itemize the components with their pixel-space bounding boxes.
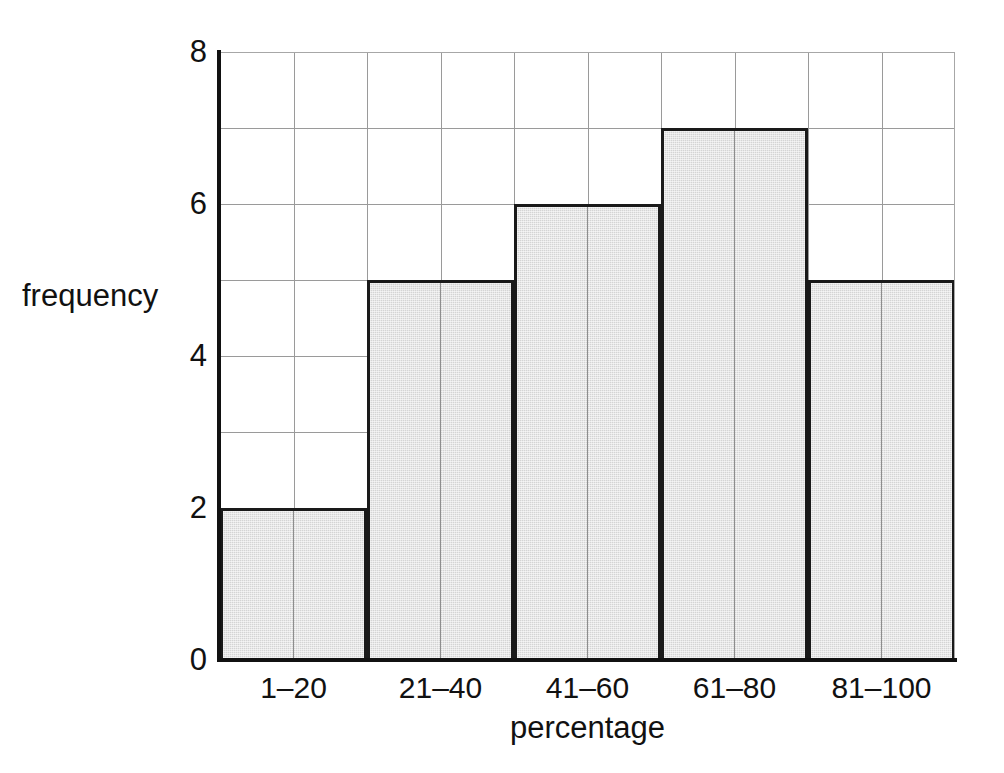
- bar: [367, 280, 514, 660]
- bar-half-divider: [440, 283, 441, 660]
- y-tick-label: 8: [147, 36, 207, 67]
- bar-series: [220, 52, 955, 660]
- bar: [220, 508, 367, 660]
- x-axis-line: [217, 658, 957, 662]
- bar-half-divider: [587, 207, 588, 660]
- bar: [808, 280, 955, 660]
- bar-half-divider: [881, 283, 882, 660]
- y-axis-tick-labels: 02468: [145, 0, 207, 773]
- bar: [514, 204, 661, 660]
- histogram-figure: 02468 1–2021–4041–6061–8081–100 frequenc…: [0, 0, 1004, 773]
- y-tick-label: 4: [147, 340, 207, 371]
- x-tick-label: 61–80: [661, 668, 808, 710]
- bar-half-divider: [293, 511, 294, 660]
- y-axis-title: frequency: [22, 280, 208, 311]
- y-tick-label: 6: [147, 188, 207, 219]
- y-axis-line: [217, 50, 221, 662]
- x-axis-title: percentage: [220, 712, 955, 743]
- bar-half-divider: [734, 131, 735, 660]
- plot-area: [220, 52, 955, 660]
- bar: [661, 128, 808, 660]
- y-tick-label: 0: [147, 644, 207, 675]
- x-tick-label: 21–40: [367, 668, 514, 710]
- x-axis-tick-labels: 1–2021–4041–6061–8081–100: [220, 668, 955, 710]
- x-tick-label: 1–20: [220, 668, 367, 710]
- y-tick-label: 2: [147, 492, 207, 523]
- x-tick-label: 81–100: [808, 668, 955, 710]
- x-tick-label: 41–60: [514, 668, 661, 710]
